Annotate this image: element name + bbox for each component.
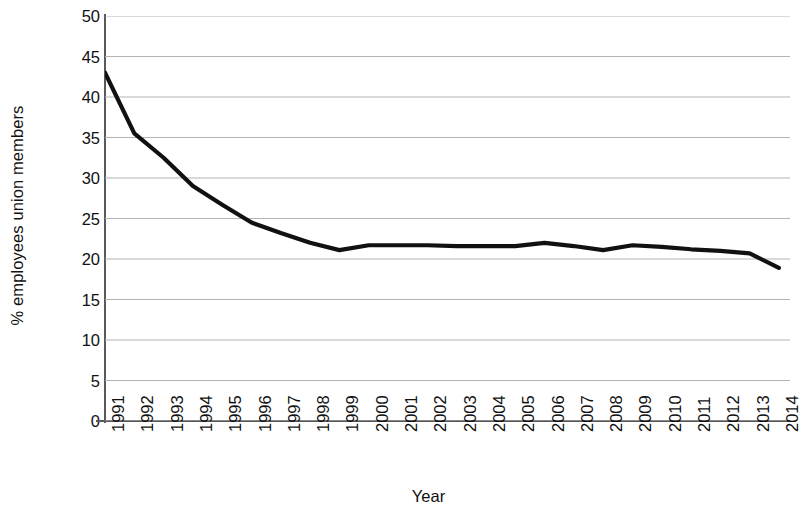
x-axis-tick-label-text: 1993 <box>169 395 186 432</box>
y-axis-title: % employees union members <box>0 0 36 430</box>
x-axis-tick-label-text: 1996 <box>257 395 274 432</box>
x-axis-tick-label-text: 2007 <box>579 395 596 432</box>
x-axis-tick-label-text: 1997 <box>286 395 303 432</box>
x-axis-tick-label-text: 2010 <box>667 395 684 432</box>
plot-area <box>105 16 790 421</box>
y-axis-tick-label: 25 <box>62 211 100 228</box>
y-axis-title-text: % employees union members <box>9 105 28 325</box>
x-axis-tick-label-text: 2009 <box>637 395 654 432</box>
x-axis-tick-label-text: 2003 <box>462 395 479 432</box>
x-axis-title-text: Year <box>412 487 445 505</box>
x-axis-tick-label-text: 2012 <box>725 395 742 432</box>
x-axis-tick-label-text: 1998 <box>315 395 332 432</box>
x-axis-tick-label-text: 1992 <box>139 395 156 432</box>
y-axis-tick-label: 40 <box>62 89 100 106</box>
gridlines <box>105 16 790 421</box>
y-axis-tick-label: 20 <box>62 251 100 268</box>
x-axis-tick-label-text: 2005 <box>520 395 537 432</box>
x-axis-tick-label-text: 2014 <box>784 395 801 432</box>
y-axis-tick-label: 15 <box>62 292 100 309</box>
x-axis-tick-label-text: 2004 <box>491 395 508 432</box>
x-axis-tick-label-text: 2011 <box>696 397 713 432</box>
x-axis-tick-label-text: 2001 <box>403 395 420 432</box>
plot-svg <box>105 16 790 421</box>
x-axis-tick-label-text: 1995 <box>227 395 244 432</box>
y-axis-tick-label: 30 <box>62 170 100 187</box>
y-axis-tick-label: 5 <box>62 373 100 390</box>
x-axis-tick-label-text: 1991 <box>110 395 127 432</box>
y-axis-tick-label: 50 <box>62 8 100 25</box>
x-axis-tick-label-text: 1999 <box>344 395 361 432</box>
y-axis-tick-label: 10 <box>62 332 100 349</box>
x-axis-title: Year <box>0 487 797 506</box>
y-axis-tick-label: 45 <box>62 49 100 66</box>
x-axis-tick-label-text: 2000 <box>374 395 391 432</box>
y-axis-tick-label: 35 <box>62 130 100 147</box>
x-axis-tick-label-text: 2013 <box>755 395 772 432</box>
y-axis-tick-labels: 50454035302520151050 <box>56 0 100 430</box>
x-axis-tick-label-text: 2002 <box>432 395 449 432</box>
x-axis-tick-labels: 1991199219931994199519961997199819992000… <box>0 424 797 486</box>
x-axis-tick-label-text: 1994 <box>198 395 215 432</box>
x-axis-tick-label-text: 2008 <box>608 395 625 432</box>
data-series-line <box>105 73 779 268</box>
x-axis-tick-label-text: 2006 <box>550 395 567 432</box>
